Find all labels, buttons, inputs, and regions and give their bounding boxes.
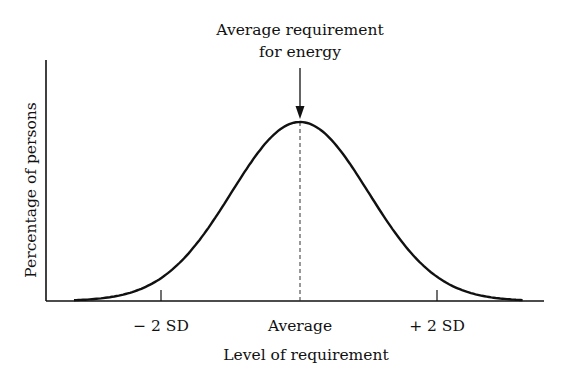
annotation-line1: Average requirement [215,21,384,39]
tick-label-minus-2sd: − 2 SD [133,317,189,335]
annotation-line2: for energy [259,43,341,61]
x-axis-label: Level of requirement [223,346,389,364]
chart: Average requirement for energy − 2 SD Av… [0,0,568,385]
arrow-head-icon [296,106,305,119]
tick-label-average: Average [267,317,332,335]
tick-label-plus-2sd: + 2 SD [409,317,465,335]
bell-curve [74,122,523,300]
y-axis-label: Percentage of persons [22,102,40,277]
